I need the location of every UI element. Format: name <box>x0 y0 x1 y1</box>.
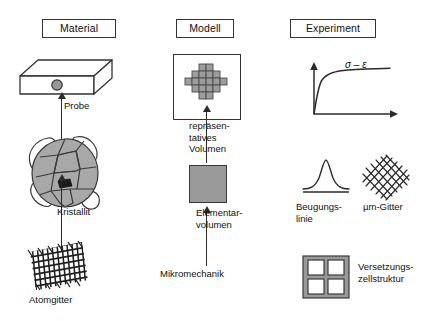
gray-square-icon <box>189 165 227 203</box>
specimen-block-icon <box>18 58 114 100</box>
micrometer-mesh-icon <box>362 156 410 200</box>
polycrystal-grain-icon <box>24 133 106 211</box>
label-repraesentatives-volumen: repräsen- tatives Volumen <box>189 120 230 155</box>
voxel-cluster-icon <box>183 62 229 104</box>
label-mikromechanik: Mikromechanik <box>160 268 224 280</box>
label-sigma-epsilon: σ – ε <box>345 59 367 71</box>
atomic-lattice-icon <box>20 240 98 292</box>
label-atomgitter: Atomgitter <box>29 294 72 306</box>
dislocation-cell-grid-icon <box>302 255 350 299</box>
column-header-experiment: Experiment <box>290 19 376 38</box>
arrow-head-atomgitter-to-kristallit <box>58 174 66 181</box>
label-probe: Probe <box>64 100 89 112</box>
label-beugungslinie: Beugungs- linie <box>296 201 342 224</box>
arrow-head-elementarvolumen-to-rve <box>203 105 211 112</box>
diffraction-peak-icon <box>300 156 352 198</box>
label-versetzungszellstruktur: Versetzungs- zellstruktur <box>358 261 413 284</box>
label-um-gitter: µm-Gitter <box>363 201 403 213</box>
column-header-material: Material <box>42 19 116 38</box>
arrow-head-kristallit-to-probe <box>58 92 66 99</box>
label-elementarvolumen: Elementar- volumen <box>196 207 242 230</box>
diagram-canvas: Material Modell Experiment Probe <box>0 0 428 321</box>
column-header-modell: Modell <box>176 19 234 38</box>
